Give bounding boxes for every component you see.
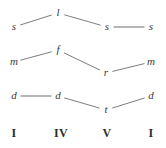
roman-numeral-label: IV [48, 127, 74, 139]
roman-numerals-layer: IIVVI [0, 0, 166, 148]
roman-numeral-label: I [138, 127, 164, 139]
roman-numeral-label: I [1, 127, 27, 139]
voice-leading-figure: slssmfrmddtd IIVVI [0, 0, 166, 148]
roman-numeral-label: V [94, 127, 120, 139]
